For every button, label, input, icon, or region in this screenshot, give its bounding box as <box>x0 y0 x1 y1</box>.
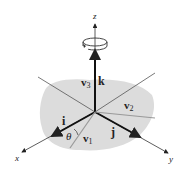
z-axis-label: z <box>93 12 97 21</box>
i-label: i <box>62 115 65 127</box>
j-label: j <box>111 126 115 138</box>
plane-region <box>40 79 154 150</box>
y-axis-label: y <box>169 155 173 164</box>
k-label: k <box>98 75 105 87</box>
v1-label: v1 <box>83 133 93 146</box>
theta-label: θ <box>66 131 71 142</box>
v2-label: v2 <box>124 100 134 113</box>
x-axis-label: x <box>15 154 19 163</box>
v3-label: v3 <box>81 77 91 90</box>
rotation-diagram: z x y k i j v3 v2 v1 θ <box>0 0 186 175</box>
diagram-graphics <box>0 0 186 175</box>
